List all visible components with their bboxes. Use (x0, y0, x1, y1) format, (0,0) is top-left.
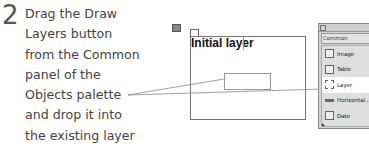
palette-item-layer[interactable]: Layer (322, 77, 369, 93)
palette-item-label: Date (337, 113, 350, 119)
palette-tab-common[interactable]: Common (321, 33, 369, 44)
palette-item-label: Image (337, 51, 354, 57)
image-icon (325, 49, 334, 58)
palette-item-horizontal-rule[interactable]: Horizontal... (322, 93, 369, 109)
close-icon[interactable] (320, 25, 326, 31)
palette-item-label: Table (337, 66, 351, 72)
layer-icon (325, 80, 334, 89)
palette-title-bar[interactable] (319, 24, 369, 32)
table-icon (325, 65, 334, 74)
palette-item-list: Image Table Layer Horizontal... Date (321, 45, 369, 127)
callout-lines (0, 0, 369, 150)
objects-palette: Common Image Table Layer Horizontal... D… (318, 23, 369, 129)
palette-item-table[interactable]: Table (322, 62, 369, 78)
palette-item-image[interactable]: Image (322, 46, 369, 62)
palette-item-date[interactable]: Date (322, 108, 369, 124)
palette-item-label: Horizontal... (337, 97, 369, 103)
horizontal-rule-icon (325, 99, 334, 102)
palette-item-label: Layer (337, 82, 352, 88)
resize-corner-icon[interactable] (322, 123, 325, 126)
date-icon (325, 111, 334, 120)
